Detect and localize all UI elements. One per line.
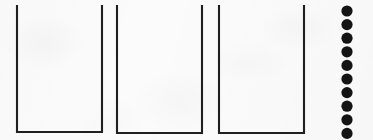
counter-6 bbox=[341, 73, 352, 84]
counter-2 bbox=[341, 19, 352, 30]
counter-column bbox=[341, 5, 352, 139]
container-1 bbox=[17, 5, 102, 132]
counter-4 bbox=[341, 46, 352, 57]
counter-3 bbox=[341, 33, 352, 44]
counter-1 bbox=[341, 5, 352, 16]
counter-7 bbox=[341, 87, 352, 98]
containers-and-counters-figure bbox=[0, 0, 373, 140]
counter-8 bbox=[341, 101, 352, 112]
counter-10 bbox=[341, 128, 352, 139]
counter-5 bbox=[341, 60, 352, 71]
container-3 bbox=[219, 5, 304, 133]
counter-9 bbox=[341, 114, 352, 125]
figure-canvas bbox=[0, 0, 373, 140]
container-group bbox=[17, 5, 304, 133]
container-2 bbox=[117, 5, 202, 133]
